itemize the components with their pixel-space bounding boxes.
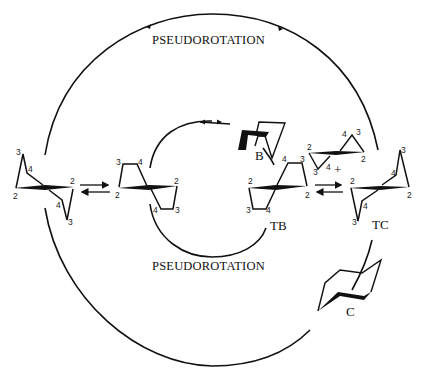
svg-text:2: 2	[305, 190, 310, 200]
svg-text:3: 3	[16, 147, 21, 157]
svg-text:3: 3	[246, 205, 251, 215]
svg-text:3: 3	[401, 145, 406, 155]
conformer-left-tb: 3 4 2 2 4 3	[115, 157, 180, 215]
equilibrium-arrows-1	[80, 185, 110, 192]
svg-text:3: 3	[313, 167, 318, 177]
svg-text:4: 4	[56, 200, 61, 210]
svg-text:3: 3	[116, 157, 121, 167]
svg-text:4: 4	[391, 168, 396, 178]
svg-text:TC: TC	[372, 217, 389, 232]
svg-text:B: B	[255, 148, 264, 163]
svg-text:4: 4	[326, 162, 331, 172]
svg-text:4: 4	[28, 164, 33, 174]
svg-text:3: 3	[68, 217, 73, 227]
outer-cycle-lower-right-arc	[352, 240, 372, 290]
conformer-boat: B	[238, 122, 285, 163]
equilibrium-arrows-2	[315, 185, 343, 192]
svg-text:3: 3	[175, 205, 180, 215]
conformer-left-tc: 3 4 2 2 4 3	[13, 147, 75, 227]
conformer-right-tb: 4 3 2 2 3 4 TB	[246, 154, 310, 233]
svg-text:3: 3	[352, 217, 357, 227]
svg-text:2: 2	[248, 176, 253, 186]
svg-text:2: 2	[70, 176, 75, 186]
svg-text:3: 3	[300, 154, 305, 164]
svg-text:4: 4	[138, 157, 143, 167]
conformer-chair: C	[318, 260, 381, 319]
conformer-right-tc: 3 4 2 2 4 3 TC	[349, 145, 412, 232]
svg-text:2: 2	[361, 154, 366, 164]
conformation-diagram: PSEUDOROTATION PSEUDOROTATION 3 4 2 2 4 …	[0, 0, 425, 381]
svg-text:4: 4	[342, 129, 347, 139]
svg-text:4: 4	[153, 205, 158, 215]
inner-cycle-label: PSEUDOROTATION	[152, 259, 265, 273]
svg-text:C: C	[346, 304, 355, 319]
svg-text:2: 2	[174, 176, 179, 186]
svg-text:2: 2	[350, 176, 355, 186]
svg-text:2: 2	[307, 142, 312, 152]
svg-text:2: 2	[13, 191, 18, 201]
svg-text:2: 2	[407, 190, 412, 200]
svg-text:2: 2	[115, 190, 120, 200]
svg-text:+: +	[334, 162, 341, 177]
outer-cycle-label: PSEUDOROTATION	[152, 33, 265, 47]
svg-text:3: 3	[356, 127, 361, 137]
svg-text:4: 4	[363, 201, 368, 211]
inner-cycle-upper-arc	[150, 121, 212, 168]
svg-text:4: 4	[266, 205, 271, 215]
svg-text:TB: TB	[270, 218, 287, 233]
svg-text:4: 4	[282, 154, 287, 164]
conformer-small-transition: 2 4 3 2 3 4 +	[307, 127, 366, 177]
